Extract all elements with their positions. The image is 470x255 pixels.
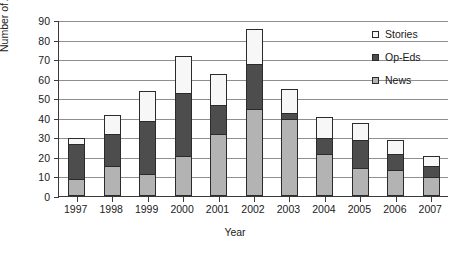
y-axis-tick	[54, 41, 59, 42]
y-axis-tick-label: 0	[10, 192, 50, 202]
y-axis-title: Number of Articles	[0, 0, 10, 52]
bar-segment	[175, 56, 192, 94]
bar-segment	[423, 177, 440, 196]
y-axis-tick-label: 90	[10, 16, 50, 26]
x-axis-tick-label: 2002	[233, 203, 273, 215]
bar-segment	[352, 168, 369, 196]
chart-legend: Stories Op-Eds News	[372, 23, 464, 92]
y-axis-tick	[54, 119, 59, 120]
bar-segment	[281, 113, 298, 120]
bar-stack	[281, 20, 298, 196]
x-axis-tick	[431, 197, 432, 202]
legend-label-news: News	[385, 75, 411, 86]
y-axis-tick	[54, 21, 59, 22]
x-axis-tick-label: 2000	[162, 203, 202, 215]
bar-segment	[104, 166, 121, 196]
x-axis-tick	[219, 197, 220, 202]
bar-segment	[210, 105, 227, 135]
bar-segment	[210, 134, 227, 196]
x-axis-tick	[396, 197, 397, 202]
bar-segment	[175, 156, 192, 196]
bar-segment	[139, 91, 156, 121]
bar-stack	[352, 20, 369, 196]
bar-segment	[352, 123, 369, 142]
y-axis-tick	[54, 197, 59, 198]
chart-figure: Number of Articles Stories Op-Eds News Y…	[0, 0, 470, 255]
bar-segment	[104, 134, 121, 166]
x-axis-tick	[325, 197, 326, 202]
y-axis-tick	[54, 138, 59, 139]
legend-swatch-news-icon	[372, 77, 379, 84]
bar-segment	[387, 140, 404, 155]
bar-segment	[352, 140, 369, 168]
bar-stack	[104, 20, 121, 196]
x-axis-tick-label: 2004	[304, 203, 344, 215]
x-axis-tick	[183, 197, 184, 202]
x-axis-tick-label: 1999	[127, 203, 167, 215]
bar-segment	[387, 170, 404, 196]
y-axis-tick-label: 50	[10, 94, 50, 104]
legend-label-stories: Stories	[385, 29, 418, 40]
legend-item-stories: Stories	[372, 23, 464, 46]
bar-stack	[246, 20, 263, 196]
bar-segment	[139, 121, 156, 175]
y-axis-tick-label: 30	[10, 133, 50, 143]
y-axis-tick	[54, 99, 59, 100]
x-axis-tick	[112, 197, 113, 202]
x-axis-tick	[77, 197, 78, 202]
x-axis-tick-label: 2003	[268, 203, 308, 215]
y-axis-tick	[54, 80, 59, 81]
bar-segment	[68, 138, 85, 145]
bar-segment	[423, 156, 440, 167]
bar-segment	[210, 74, 227, 106]
bar-segment	[175, 93, 192, 157]
bar-segment	[316, 117, 333, 140]
bar-segment	[387, 154, 404, 171]
x-axis-tick-label: 2001	[198, 203, 238, 215]
y-axis-tick	[54, 177, 59, 178]
y-axis-tick	[54, 158, 59, 159]
legend-item-news: News	[372, 69, 464, 92]
x-axis-tick-label: 2005	[339, 203, 379, 215]
bar-stack	[139, 20, 156, 196]
bar-segment	[316, 154, 333, 196]
bar-segment	[246, 64, 263, 110]
x-axis-tick	[148, 197, 149, 202]
legend-label-opeds: Op-Eds	[385, 52, 421, 63]
bar-segment	[423, 166, 440, 179]
bar-segment	[68, 144, 85, 180]
bar-segment	[68, 179, 85, 196]
bar-stack	[210, 20, 227, 196]
bar-segment	[316, 138, 333, 155]
bar-segment	[246, 109, 263, 196]
y-axis-tick-label: 70	[10, 55, 50, 65]
y-axis-tick-label: 60	[10, 75, 50, 85]
x-axis-tick	[254, 197, 255, 202]
bar-segment	[139, 174, 156, 197]
bar-segment	[281, 89, 298, 113]
y-axis-tick-label: 20	[10, 153, 50, 163]
y-axis-tick-label: 80	[10, 36, 50, 46]
x-axis-title: Year	[0, 226, 470, 238]
y-axis-tick	[54, 60, 59, 61]
legend-swatch-opeds-icon	[372, 54, 379, 61]
x-axis-tick-label: 2007	[410, 203, 450, 215]
x-axis-tick-label: 1998	[91, 203, 131, 215]
bar-segment	[246, 29, 263, 65]
bar-stack	[68, 20, 85, 196]
bar-segment	[281, 119, 298, 196]
x-axis-tick-label: 1997	[56, 203, 96, 215]
bar-stack	[316, 20, 333, 196]
x-axis-tick-label: 2006	[375, 203, 415, 215]
legend-item-opeds: Op-Eds	[372, 46, 464, 69]
legend-swatch-stories-icon	[372, 31, 379, 38]
bar-stack	[175, 20, 192, 196]
y-axis-tick-label: 10	[10, 172, 50, 182]
x-axis-tick	[289, 197, 290, 202]
x-axis-tick	[360, 197, 361, 202]
bar-segment	[104, 115, 121, 136]
y-axis-tick-label: 40	[10, 114, 50, 124]
